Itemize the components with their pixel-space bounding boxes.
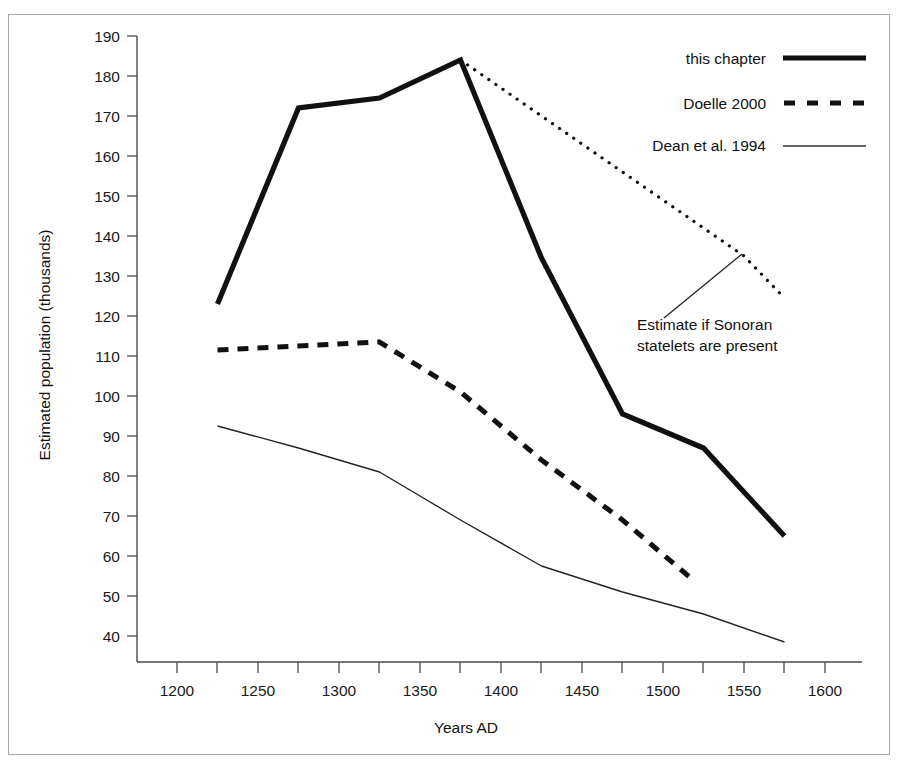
x-tick-label: 1300	[322, 682, 357, 699]
y-tick-label: 80	[103, 468, 121, 485]
figure-container: 190 180 170 160 150 140 130 120 110 100 …	[0, 0, 908, 768]
x-tick-label: 1200	[160, 682, 195, 699]
series-this-chapter	[218, 60, 785, 536]
y-tick-label: 60	[103, 548, 121, 565]
chart-legend: this chapter Doelle 2000 Dean et al. 199…	[652, 50, 866, 154]
legend-label: Doelle 2000	[683, 95, 766, 112]
y-tick-label: 110	[95, 348, 120, 365]
legend-label: this chapter	[686, 50, 766, 67]
annotation-line-1: Estimate if Sonoran	[637, 316, 772, 333]
annotation-leader-line	[664, 254, 742, 318]
y-tick-label: 180	[94, 68, 120, 85]
y-tick-label: 120	[94, 308, 120, 325]
legend-item-this-chapter[interactable]: this chapter	[686, 50, 866, 67]
y-axis-ticks	[127, 36, 137, 636]
x-axis-title: Years AD	[434, 719, 498, 736]
x-tick-label: 1400	[484, 682, 519, 699]
x-tick-label: 1600	[808, 682, 843, 699]
y-tick-label: 70	[103, 508, 121, 525]
y-tick-label: 160	[94, 148, 120, 165]
y-tick-label: 190	[94, 28, 120, 45]
y-axis-tick-labels: 190 180 170 160 150 140 130 120 110 100 …	[94, 28, 120, 645]
y-tick-label: 90	[103, 428, 121, 445]
x-axis-tick-labels: 1200 1250 1300 1350 1400 1450 1500 1550 …	[160, 682, 843, 699]
y-tick-label: 140	[94, 228, 120, 245]
x-axis-ticks	[177, 662, 825, 673]
series-doelle-2000	[218, 342, 696, 582]
x-tick-label: 1550	[727, 682, 762, 699]
chart-canvas: 190 180 170 160 150 140 130 120 110 100 …	[0, 0, 908, 768]
x-tick-label: 1450	[565, 682, 600, 699]
annotation-sonoran: Estimate if Sonoran statelets are presen…	[637, 254, 778, 354]
y-tick-label: 100	[94, 388, 120, 405]
y-axis: 190 180 170 160 150 140 130 120 110 100 …	[36, 28, 137, 662]
legend-item-dean-et-al-1994[interactable]: Dean et al. 1994	[652, 137, 866, 154]
legend-item-doelle-2000[interactable]: Doelle 2000	[683, 95, 866, 112]
y-axis-title: Estimated population (thousands)	[36, 230, 53, 461]
annotation-line-2: statelets are present	[637, 337, 778, 354]
y-tick-label: 170	[94, 108, 120, 125]
x-tick-label: 1350	[403, 682, 438, 699]
y-tick-label: 150	[94, 188, 120, 205]
y-tick-label: 50	[103, 588, 121, 605]
x-tick-label: 1500	[646, 682, 681, 699]
x-axis: 1200 1250 1300 1350 1400 1450 1500 1550 …	[137, 662, 862, 736]
y-tick-label: 40	[103, 628, 121, 645]
series-dean-et-al-1994	[218, 426, 785, 642]
legend-label: Dean et al. 1994	[652, 137, 766, 154]
y-tick-label: 130	[94, 268, 120, 285]
x-tick-label: 1250	[241, 682, 276, 699]
